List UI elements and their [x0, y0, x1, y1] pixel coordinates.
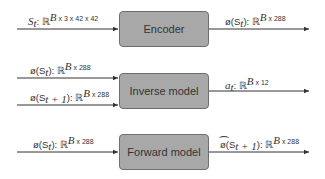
inverse-output-label: at: ℝB x 12 — [225, 75, 269, 93]
forward-model-label: Forward model — [127, 146, 200, 158]
encoder-output-label: ø(St): ℝB x 288 — [225, 11, 286, 29]
forward-model-block: Forward model — [119, 134, 209, 170]
inverse-input2-label: ø(St + 1): ℝB x 288 — [30, 87, 109, 105]
inverse-model-block: Inverse model — [119, 73, 209, 109]
inverse-model-label: Inverse model — [129, 85, 198, 97]
inverse-input1-label: ø(St): ℝB x 288 — [30, 60, 91, 78]
encoder-input-label: St: ℝB x 3 x 42 x 42 — [28, 11, 98, 29]
encoder-label: Encoder — [144, 23, 185, 35]
forward-input-label: ø(St): ℝB x 288 — [33, 134, 94, 152]
encoder-block: Encoder — [119, 11, 209, 47]
forward-output-label: ø(St + 1): ℝB x 288 — [220, 134, 299, 152]
hat-icon: ø — [220, 139, 226, 150]
